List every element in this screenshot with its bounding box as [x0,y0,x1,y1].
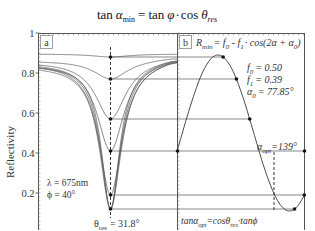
reflectivity-curve [39,54,178,57]
y-tick-label: 0.8 [21,68,34,79]
formula-R: R [195,37,202,48]
panel-b-curve [178,55,305,211]
param-a0-sub: 0 [252,92,256,100]
panel-b-frame [178,34,305,231]
title-eq: = [138,7,145,22]
param-f1-value: = 0.39 [255,74,282,85]
title-phi: φ [167,7,174,22]
rmin-point [176,149,180,153]
title-tan2: tan [148,7,164,22]
bf-tan-phi: ·tanϕ [238,216,258,226]
title-dot: · [176,7,180,22]
y-tick-label: 1 [29,28,34,39]
theta-value: = 31.8° [110,218,140,229]
alpha-opt-formula: tanαopt=cosθres·tanϕ [181,216,257,228]
formula-f1-sub: 1 [240,43,244,51]
alpha-opt-annotation: αopt=139° [257,141,297,155]
panel-b-label: b [183,37,188,48]
param-f0-sub: 0 [250,68,254,76]
title-min-sub: min [123,15,135,24]
reflectivity-curve [39,63,178,195]
reflectivity-curve [39,59,178,79]
rmin-point [235,77,239,81]
title-tan: tan [97,7,113,22]
formula-close: ) [296,37,301,49]
figure: tanαmin=tanφ·cosθres 10.80.60.40.2 Refle… [0,0,315,230]
param-a0-value: = 77.85° [258,86,294,97]
rmin-point [293,207,297,211]
formula-rmin: Rmin= f0 - f1· cos(2α + α0) [195,37,301,51]
title-equation: tanαmin=tanφ·cosθres [97,7,217,24]
rmin-point [221,55,225,59]
alpha-opt-value: =139° [271,141,297,152]
panel-a-label: a [44,37,49,48]
param-alpha0: α0= 77.85° [247,86,294,100]
rmin-cosine-curve [178,55,305,211]
bf-cos-theta: =cosθ [206,216,230,226]
title-cos: cos [181,7,198,22]
y-tick-labels: 10.80.60.40.2 [21,28,35,199]
bf-tan-alpha: tanα [181,216,199,226]
title-res-sub: res [208,15,217,24]
phi-annotation: ϕ = 40° [47,190,76,200]
theta-res-annotation: θres= 31.8° [94,218,140,230]
rmin-point-edge [303,149,307,153]
y-tick-label: 0.6 [21,108,34,119]
rmin-point [248,117,252,121]
bf-opt-sub: opt [198,221,207,228]
y-tick-label: 0.4 [21,148,35,159]
formula-cos: · cos(2α + α [245,37,295,49]
lambda-annotation: λ = 675nm [47,178,89,188]
y-axis-label: Reflectivity [4,126,16,178]
y-tick-label: 0.2 [21,188,34,199]
param-f0-value: = 0.50 [255,62,282,73]
formula-R-sub: min [202,43,213,51]
rmin-point [303,193,307,197]
reflectivity-curve [39,62,178,151]
theta-sub: res [99,224,107,230]
